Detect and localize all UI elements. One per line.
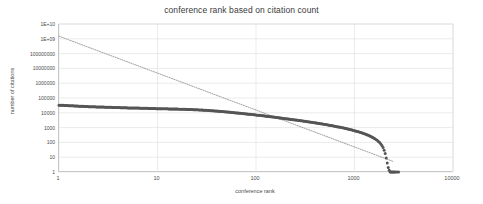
y-axis-tick-label: 1000000 xyxy=(36,81,55,86)
chart-container: conference rank based on citation count … xyxy=(0,0,483,204)
x-axis-tick-label: 10000 xyxy=(444,176,459,182)
data-series-points xyxy=(59,24,453,172)
x-axis-tick-label: 10 xyxy=(153,176,159,182)
y-axis-tick-label: 10000 xyxy=(41,110,55,115)
y-axis-tick-label: 1000 xyxy=(44,125,55,130)
y-axis-tick-label: 10000000 xyxy=(33,66,55,71)
chart-title: conference rank based on citation count xyxy=(0,5,483,15)
x-axis-tick-labels: 110100100010000 xyxy=(58,176,452,186)
x-axis-tick-label: 100 xyxy=(250,176,259,182)
y-axis-tick-label: 100000000 xyxy=(30,51,55,56)
x-axis-tick-label: 1000 xyxy=(347,176,359,182)
y-axis-tick-label: 100 xyxy=(47,140,55,145)
y-axis-tick-label: 10 xyxy=(49,155,55,160)
y-axis-tick-label: 1 xyxy=(52,170,55,175)
y-axis-title: number of citations xyxy=(9,53,15,129)
x-axis-title: conference rank xyxy=(58,188,452,194)
y-axis-tick-label: 100000 xyxy=(38,96,55,101)
y-axis-tick-label: 1E+10 xyxy=(40,22,55,27)
y-axis-tick-label: 1E+09 xyxy=(40,36,55,41)
plot-area xyxy=(58,24,452,172)
x-axis-tick-label: 1 xyxy=(56,176,59,182)
